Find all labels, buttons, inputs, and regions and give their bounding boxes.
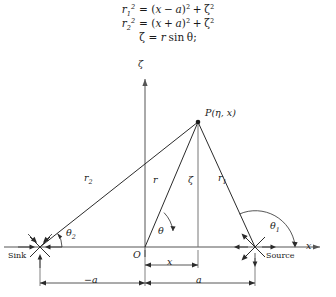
equation-r2-plus-sign: + [162, 17, 176, 29]
equation-r2-term-x: x [156, 17, 162, 29]
point-p-marker [196, 120, 201, 125]
point-p-label: P(η, x) [205, 107, 236, 118]
equation-zeta-equals: = [145, 31, 161, 43]
equation-r2-lhs: r22 [122, 17, 136, 29]
zeta-axis-arrowhead [142, 79, 147, 86]
zeta-axis-label: ζ [138, 58, 143, 69]
equation-r1-zeta-superscript: 2 [210, 3, 214, 11]
segment-zeta-label: ζ [188, 174, 193, 185]
angle-theta-arrowhead [170, 226, 175, 231]
equation-r1-lhs: r12 [122, 3, 136, 15]
equation-r1-plus: + [190, 3, 204, 15]
segment-r-label: r [153, 174, 158, 185]
equation-block: r12=(x−a)2+ζ2 r22=(x+a)2+ζ2 ζ=rsinθ; [0, 2, 336, 44]
dimension-a-label: a [196, 274, 202, 285]
dimension-x-label: x [167, 256, 172, 267]
angle-theta-label: θ [158, 225, 164, 236]
segment-r2-label: r2 [84, 172, 93, 183]
equation-r1-term-x: x [156, 3, 162, 15]
equation-r1-minus: − [162, 3, 176, 15]
equation-zeta-semicolon: ; [193, 31, 197, 43]
angle-theta1-label: θ1 [270, 220, 280, 231]
equation-r2-plus: + [190, 17, 204, 29]
sink-label: Sink [8, 251, 26, 260]
angle-theta2-label: θ2 [66, 227, 76, 238]
equation-r1-squared: r12=(x−a)2+ζ2 [0, 2, 336, 16]
figure-page: r12=(x−a)2+ζ2 r22=(x+a)2+ζ2 ζ=rsinθ; [0, 0, 336, 297]
equation-r2-zeta-superscript: 2 [210, 17, 214, 25]
origin-label: O [133, 249, 141, 260]
dimension-minus-a-label: −a [84, 274, 98, 285]
equation-r2-subscript: 2 [127, 24, 131, 32]
equation-r1-equals: = [135, 3, 151, 15]
equation-r2-equals: = [135, 17, 151, 29]
geometry-diagram: x ζ O P(η, x) Sink Source r2 r ζ r1 θ2 θ… [0, 62, 336, 297]
equation-zeta-sin: sin [166, 31, 184, 43]
segment-r1-label: r1 [218, 172, 227, 183]
equation-r2-squared: r22=(x+a)2+ζ2 [0, 16, 336, 30]
angle-theta2-arrowhead [58, 234, 63, 239]
equation-zeta-definition: ζ=rsinθ; [0, 30, 336, 44]
x-axis-label: x [306, 240, 311, 251]
equation-zeta-theta: θ [184, 31, 193, 43]
source-label: Source [266, 251, 295, 260]
x-axis-arrowhead [313, 244, 320, 249]
